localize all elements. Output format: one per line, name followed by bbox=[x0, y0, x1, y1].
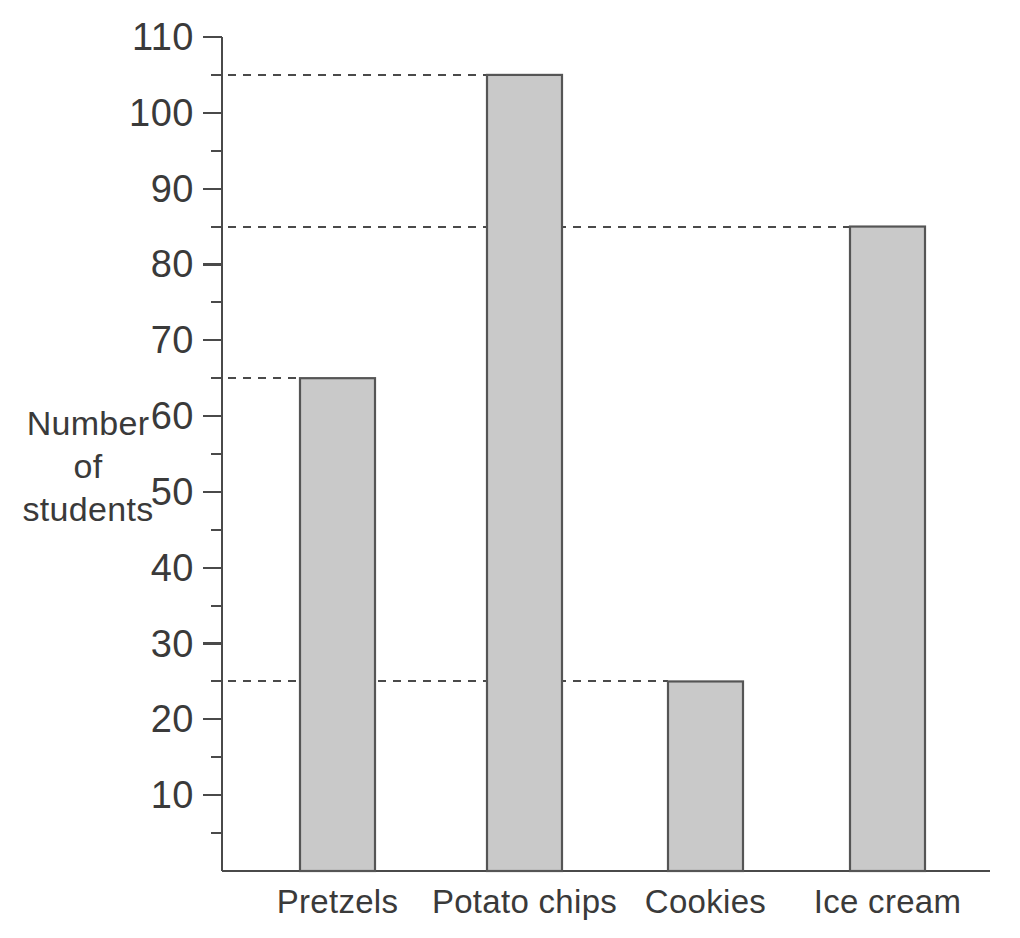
y-tick-label-70: 70 bbox=[151, 319, 194, 361]
category-label-ice-cream: Ice cream bbox=[814, 883, 962, 920]
chart-canvas: 102030405060708090100110 PretzelsPotato … bbox=[0, 0, 1020, 938]
y-tick-label-90: 90 bbox=[151, 168, 194, 210]
category-labels-group: PretzelsPotato chipsCookiesIce cream bbox=[277, 883, 962, 920]
category-label-pretzels: Pretzels bbox=[277, 883, 399, 920]
plot-area: 102030405060708090100110 PretzelsPotato … bbox=[0, 0, 1020, 938]
category-label-potato-chips: Potato chips bbox=[432, 883, 617, 920]
y-axis-title-line-3: students bbox=[23, 490, 154, 528]
y-tick-label-80: 80 bbox=[151, 243, 194, 285]
y-tick-label-20: 20 bbox=[151, 698, 194, 740]
bar-chart-svg: 102030405060708090100110 PretzelsPotato … bbox=[0, 0, 1020, 938]
bar-pretzels[interactable] bbox=[300, 378, 375, 871]
bars-group bbox=[300, 75, 925, 871]
bar-cookies[interactable] bbox=[668, 681, 743, 871]
y-axis-title: Number of students bbox=[23, 404, 154, 528]
y-axis-title-line-1: Number bbox=[27, 404, 150, 442]
y-axis-ticks-group bbox=[203, 37, 222, 833]
y-axis-title-line-2: of bbox=[74, 447, 103, 485]
bar-ice-cream[interactable] bbox=[850, 227, 925, 871]
y-tick-label-60: 60 bbox=[151, 395, 194, 437]
bar-potato-chips[interactable] bbox=[487, 75, 562, 871]
y-tick-label-100: 100 bbox=[129, 92, 194, 134]
y-tick-label-110: 110 bbox=[132, 16, 194, 58]
y-tick-label-30: 30 bbox=[151, 623, 194, 665]
category-label-cookies: Cookies bbox=[645, 883, 766, 920]
y-tick-label-40: 40 bbox=[151, 547, 194, 589]
y-tick-label-10: 10 bbox=[151, 774, 194, 816]
y-tick-label-50: 50 bbox=[151, 471, 194, 513]
